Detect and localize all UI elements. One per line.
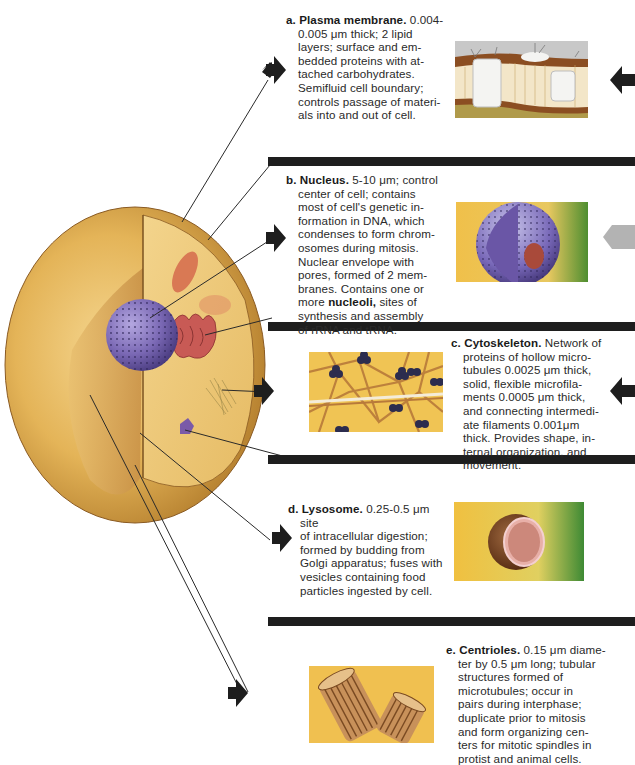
item-line: branes. Contains one or <box>298 282 424 295</box>
item-line: ter by 0.5 μm long; tubular <box>458 657 596 670</box>
cytoskeleton-illustration <box>309 352 443 432</box>
item-line: ate filaments 0.001μm <box>463 418 579 431</box>
item-line: more <box>298 295 328 308</box>
item-line: and form organizing cen- <box>458 725 589 738</box>
item-line: solid, flexible microfila- <box>463 377 582 390</box>
item-line: ternal organization, and <box>463 445 587 458</box>
item-letter: e. <box>446 643 456 656</box>
item-line: ters for mitotic spindles in <box>458 738 592 751</box>
item-line: 5-10 μm; control <box>352 173 438 186</box>
arrow-right-icon <box>228 679 248 707</box>
item-line: proteins of hollow micro- <box>463 350 591 363</box>
item-line: 0.15 μm diame- <box>524 643 606 656</box>
item-line: ments 0.0005 μm thick, <box>463 390 585 403</box>
item-line: layers; surface and em- <box>298 40 421 53</box>
centrioles-illustration <box>309 666 434 743</box>
arrow-right-icon <box>266 224 286 252</box>
item-line: center of cell; contains <box>298 187 416 200</box>
description-centrioles: e. Centrioles. 0.15 μm diame- ter by 0.5… <box>446 643 621 765</box>
nucleus-illustration <box>456 202 588 282</box>
item-line: pairs during interphase; <box>458 697 582 710</box>
arrow-right-icon <box>266 56 286 84</box>
item-line: synthesis and assembly <box>298 309 423 322</box>
item-title: Cytoskeleton. <box>464 336 541 349</box>
item-line: pores, formed of 2 mem- <box>298 268 427 281</box>
item-line: thick. Provides shape, in- <box>463 431 595 444</box>
item-line: bedded proteins with at- <box>298 54 424 67</box>
lysosome-illustration <box>454 502 584 581</box>
item-line: condenses to form chrom- <box>298 227 435 240</box>
item-line: movement. <box>463 458 521 471</box>
description-plasma-membrane: a. Plasma membrane. 0.004- 0.005 μm thic… <box>286 13 446 122</box>
item-title: Plasma membrane. <box>299 13 406 26</box>
item-letter: c. <box>451 336 461 349</box>
item-line: protist and animal cells. <box>458 752 582 765</box>
item-line: Semifluid cell boundary; <box>298 81 424 94</box>
item-line: 0.004- <box>410 13 443 26</box>
description-nucleus: b. Nucleus. 5-10 μm; control center of c… <box>286 173 446 336</box>
item-line: formed by budding from <box>300 543 425 556</box>
item-line: als into and out of cell. <box>298 108 416 121</box>
plasma-membrane-illustration <box>455 41 588 118</box>
item-line: controls passage of materi- <box>298 95 441 108</box>
item-line: vesicles containing food <box>300 570 426 583</box>
item-letter: d. <box>288 502 299 515</box>
item-title: Centrioles. <box>459 643 520 656</box>
item-line: formation in DNA, which <box>298 214 425 227</box>
item-line: of rRNA and tRNA. <box>298 323 397 336</box>
arrow-left-icon <box>610 66 635 94</box>
item-line: duplicate prior to mitosis <box>458 711 586 724</box>
item-line: of intracellular digestion; <box>300 529 428 542</box>
item-title: Nucleus. <box>300 173 349 186</box>
item-line: microtubules; occur in <box>458 684 573 697</box>
item-letter: a. <box>286 13 296 26</box>
item-line: particles ingested by cell. <box>300 584 432 597</box>
bold-term: nucleoli, <box>328 295 376 308</box>
gray-arrow-left-icon <box>603 225 635 249</box>
item-line: tubules 0.0025 μm thick, <box>463 363 591 376</box>
description-lysosome: d. Lysosome. 0.25-0.5 μm site of intrace… <box>288 502 448 597</box>
item-line: tached carbohydrates. <box>298 67 415 80</box>
item-title: Lysosome. <box>302 502 363 515</box>
item-line: and connecting intermedi- <box>463 404 599 417</box>
item-line: sites of <box>376 295 417 308</box>
item-line: Network of <box>545 336 601 349</box>
description-cytoskeleton: c. Cytoskeleton. Network of proteins of … <box>451 336 621 472</box>
arrow-right-icon <box>254 377 274 405</box>
item-line: most of cell's genetic in- <box>298 200 424 213</box>
item-line: 0.005 μm thick; 2 lipid <box>298 27 413 40</box>
item-line: Nuclear envelope with <box>298 255 414 268</box>
item-line: Golgi apparatus; fuses with <box>300 556 443 569</box>
item-letter: b. <box>286 173 297 186</box>
item-line: structures formed of <box>458 670 563 683</box>
item-line: osomes during mitosis. <box>298 241 419 254</box>
